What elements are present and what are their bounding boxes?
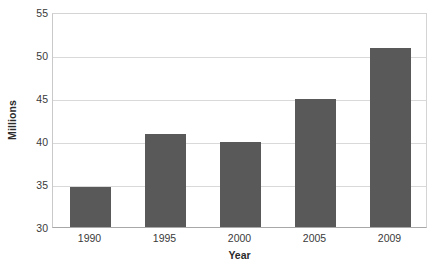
x-axis-tick-label: 2000 <box>228 233 251 244</box>
bar <box>295 99 336 227</box>
bar <box>70 187 111 227</box>
x-axis-tick-label: 1995 <box>153 233 176 244</box>
bar <box>370 48 411 227</box>
y-axis-tick-label: 55 <box>36 8 48 19</box>
y-axis-tick-label: 50 <box>36 51 48 62</box>
y-axis-title: Millions <box>2 0 22 240</box>
x-axis-tick-label: 2009 <box>378 233 401 244</box>
bar <box>220 142 261 227</box>
y-axis-tick-label: 40 <box>36 137 48 148</box>
y-axis-tick-label: 30 <box>36 223 48 234</box>
y-axis-tick-label: 35 <box>36 180 48 191</box>
bar-chart: Millions 303540455055 199019952000200520… <box>0 0 442 278</box>
y-axis-tick-label: 45 <box>36 94 48 105</box>
x-axis-title: Year <box>52 250 427 261</box>
bars-series <box>53 14 426 227</box>
x-axis-tick-labels: 19901995200020052009 <box>52 233 427 249</box>
y-axis-tick-labels: 303540455055 <box>22 13 48 228</box>
y-axis-title-label: Millions <box>6 100 18 140</box>
x-axis-tick-label: 1990 <box>78 233 101 244</box>
x-axis-tick-label: 2005 <box>303 233 326 244</box>
plot-area <box>52 13 427 228</box>
bar <box>145 134 186 227</box>
